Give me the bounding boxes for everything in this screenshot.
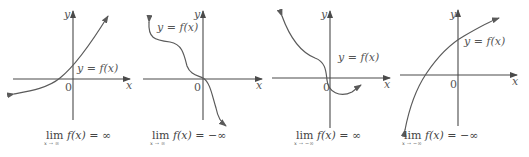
lim-subscript: x → −∞ [294,141,314,146]
lim-function: f(x) [173,129,192,142]
y-axis-label: y [321,9,327,20]
y-axis-label: y [64,9,70,20]
lim-subscript: x → −∞ [402,141,422,146]
curve-label: y = f(x) [77,63,118,74]
graph-panel-3: y x 0 y = f(x) limx → −∞ f(x) = ∞ [260,0,395,157]
equals-sign: = [336,129,352,142]
equals-sign: = [192,129,208,142]
lim-subscript: x → ∞ [150,141,165,146]
lim-function: f(x) [425,129,444,142]
graph-panel-2: y x 0 y = f(x) limx → ∞ f(x) = −∞ [130,0,262,157]
lim-function: f(x) [317,129,336,142]
lim-value: ∞ [352,129,361,142]
origin-label: 0 [65,82,72,93]
equals-sign: = [444,129,460,142]
lim-function: f(x) [67,129,86,142]
curve-label: y = f(x) [157,22,198,33]
x-axis-label: x [512,76,518,87]
limit-expression: limx → −∞ f(x) = −∞ [404,130,478,141]
y-axis-label: y [450,9,456,20]
limit-expression: limx → −∞ f(x) = ∞ [296,130,361,141]
origin-label: 0 [194,82,201,93]
origin-label: 0 [450,79,457,90]
graph-panel-4: y x 0 y = f(x) limx → −∞ f(x) = −∞ [390,0,529,157]
curve-label: y = f(x) [464,36,505,47]
curve-label: y = f(x) [338,52,379,63]
lim-subscript: x → ∞ [44,141,59,146]
origin-label: 0 [323,82,330,93]
lim-value: −∞ [460,129,478,142]
graph-panel-1: y x 0 y = f(x) limx → ∞ f(x) = ∞ [0,0,132,157]
function-curve [149,22,226,126]
y-axis-label: y [194,9,200,20]
lim-value: −∞ [208,129,226,142]
equals-sign: = [86,129,102,142]
lim-value: ∞ [102,129,111,142]
function-curve [14,16,108,94]
limit-expression: limx → ∞ f(x) = ∞ [46,130,111,141]
limit-expression: limx → ∞ f(x) = −∞ [152,130,226,141]
